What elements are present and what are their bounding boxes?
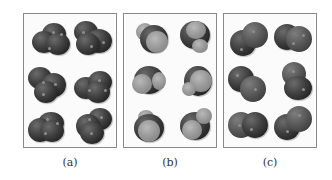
panel-c-label: (c) [223, 156, 317, 169]
molecule [76, 108, 116, 144]
molecule [180, 108, 220, 144]
molecule [28, 112, 68, 148]
molecule [230, 22, 270, 58]
molecule [136, 23, 176, 59]
panel-a [23, 13, 117, 148]
panel-b [123, 13, 217, 148]
molecule [228, 66, 268, 102]
molecule [28, 67, 68, 103]
molecule [274, 24, 314, 60]
molecule [74, 21, 114, 57]
molecule [180, 21, 220, 57]
molecule [228, 112, 268, 148]
molecule [280, 62, 320, 98]
panel-b-label: (b) [123, 156, 217, 169]
molecule [74, 71, 114, 107]
molecule [132, 66, 172, 102]
molecule [274, 106, 314, 142]
panel-a-label: (a) [23, 156, 117, 169]
molecule [182, 66, 222, 102]
molecule [32, 23, 72, 59]
panel-c [223, 13, 317, 148]
molecule [134, 110, 174, 146]
